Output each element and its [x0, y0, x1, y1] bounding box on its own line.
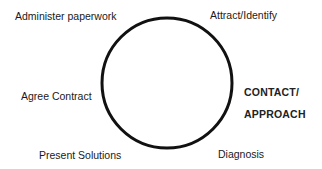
stage-attract-identify: Attract/Identify [210, 9, 277, 21]
stage-agree-contract: Agree Contract [21, 90, 92, 102]
stage-diagnosis: Diagnosis [218, 148, 264, 160]
stage-contact-approach-line2: APPROACH [244, 108, 306, 120]
stage-administer-paperwork: Administer paperwork [15, 10, 117, 22]
stage-contact-approach-line1: CONTACT/ [244, 86, 299, 98]
stage-present-solutions: Present Solutions [39, 149, 121, 161]
cycle-circle [0, 0, 322, 169]
